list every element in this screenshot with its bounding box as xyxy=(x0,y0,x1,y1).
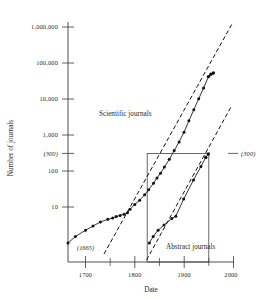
y-tick-label-100000: 100,000 xyxy=(36,59,58,66)
y-tick-label-300: (300) xyxy=(43,150,58,158)
y-right-tick-label-300: (300) xyxy=(241,150,256,158)
annotation-start-year: (1665) xyxy=(77,244,94,252)
x-tick-label-2000: 2000 xyxy=(224,271,237,278)
x-tick-label-1800: 1800 xyxy=(128,271,141,278)
y-tick-label-1000000: 1,000,000 xyxy=(31,23,58,30)
abstract-journals-markers xyxy=(148,152,210,244)
x-tick-label-1700: 1700 xyxy=(79,271,92,278)
x-axis-ticks: 1700 1800 1900 2000 xyxy=(79,256,238,278)
y-axis-title: Number of journals xyxy=(7,120,15,176)
annotation-abstract-journals: Abstract journals xyxy=(166,243,216,251)
abstract-journals-trend-line xyxy=(147,107,232,260)
x-tick-label-1900: 1900 xyxy=(178,271,191,278)
annotation-scientific-journals: Scientific journals xyxy=(99,110,152,118)
y-tick-label-100: 100 xyxy=(48,167,58,174)
scientific-journals-line xyxy=(68,73,213,243)
y-tick-label-1000: 1,000 xyxy=(43,131,58,138)
y-tick-label-10000: 10,000 xyxy=(40,95,58,102)
figure-growth-of-journals: 1,000,000 100,000 10,000 1,000 (300) 100… xyxy=(0,0,260,299)
scientific-journals-series xyxy=(67,71,216,244)
abstract-journals-series xyxy=(148,152,210,244)
y-axis-right-tick: (300) xyxy=(228,150,256,158)
scientific-journals-markers xyxy=(67,71,216,244)
chart-svg: 1,000,000 100,000 10,000 1,000 (300) 100… xyxy=(0,0,260,299)
y-tick-label-10: 10 xyxy=(51,203,58,210)
x-axis-title: Date xyxy=(144,286,158,294)
